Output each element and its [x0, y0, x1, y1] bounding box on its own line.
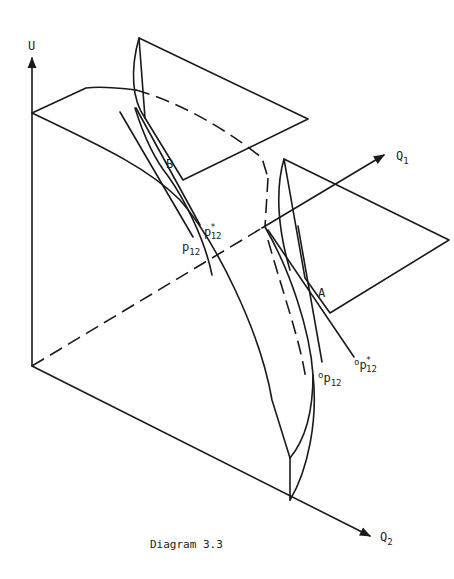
- surface-top-left-edge: [32, 87, 136, 113]
- q1-axis-label: Q1: [396, 149, 409, 166]
- u-axis-label: U: [28, 39, 35, 53]
- price-line-a-star: [268, 230, 354, 357]
- price-a-star-label: op*12: [354, 355, 377, 374]
- point-b-label: B: [166, 157, 173, 171]
- point-a-label: A: [318, 286, 326, 300]
- indifference-curve-b: [135, 108, 212, 275]
- q2-axis: [32, 366, 370, 536]
- diagram-caption: Diagram 3.3: [150, 538, 223, 551]
- price-line-b: [120, 112, 193, 237]
- price-b-star-label: p*12: [204, 222, 222, 241]
- q1-axis-hidden: [32, 228, 262, 366]
- surface-ridge-hidden: [136, 90, 268, 178]
- price-a-label: op12: [318, 370, 342, 388]
- price-b-label: p12: [182, 240, 200, 257]
- q2-axis-label: Q2: [380, 530, 393, 547]
- utility-surface-diagram: U Q1 Q2 B A p*12 p12 op*12 op12: [0, 0, 454, 579]
- surface-front-curve: [32, 113, 290, 458]
- surface-back-hidden: [265, 178, 268, 227]
